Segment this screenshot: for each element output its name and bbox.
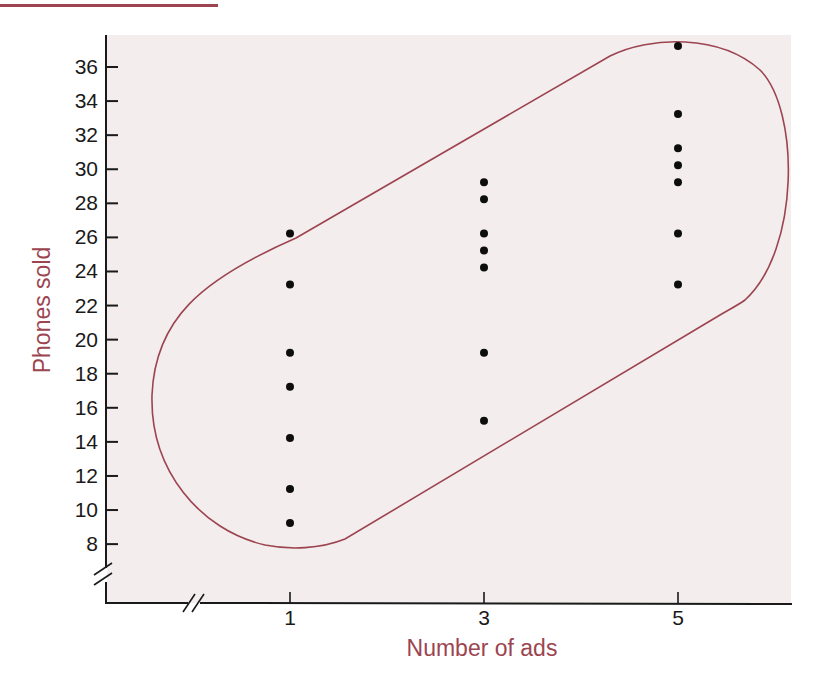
y-tick-label: 12 <box>75 464 98 487</box>
data-point <box>674 281 682 289</box>
x-axis-title: Number of ads <box>407 635 558 661</box>
data-point <box>286 281 294 289</box>
data-point <box>674 42 682 50</box>
header-rule <box>0 4 218 7</box>
y-tick-label: 22 <box>75 294 98 317</box>
data-point <box>674 144 682 152</box>
data-point <box>286 519 294 527</box>
data-point <box>480 195 488 203</box>
data-point <box>674 110 682 118</box>
y-tick-label: 36 <box>75 55 98 78</box>
y-tick-label: 10 <box>75 498 98 521</box>
data-point <box>286 383 294 391</box>
x-tick-label: 5 <box>672 606 684 629</box>
data-point <box>286 485 294 493</box>
y-tick-label: 16 <box>75 396 98 419</box>
data-point <box>286 434 294 442</box>
y-tick-label: 34 <box>75 89 99 112</box>
y-tick-label: 26 <box>75 225 98 248</box>
data-point <box>674 229 682 237</box>
y-tick-label: 18 <box>75 362 98 385</box>
data-point <box>286 349 294 357</box>
x-tick-label: 3 <box>478 606 490 629</box>
data-point <box>674 178 682 186</box>
y-tick-label: 20 <box>75 328 98 351</box>
y-tick-label: 14 <box>75 430 99 453</box>
y-tick-label: 8 <box>86 532 98 555</box>
data-point <box>674 161 682 169</box>
y-tick-label: 28 <box>75 191 98 214</box>
y-tick-label: 30 <box>75 157 98 180</box>
y-axis-title: Phones sold <box>29 247 55 374</box>
scatter-chart: 81012141618202224262830323436 135 Phones… <box>0 0 821 687</box>
y-tick-label: 24 <box>75 259 99 282</box>
data-point <box>480 246 488 254</box>
data-point <box>480 349 488 357</box>
data-point <box>480 178 488 186</box>
data-point <box>480 263 488 271</box>
y-tick-label: 32 <box>75 123 98 146</box>
data-point <box>480 229 488 237</box>
data-point <box>480 417 488 425</box>
x-tick-label: 1 <box>284 606 296 629</box>
data-point <box>286 229 294 237</box>
